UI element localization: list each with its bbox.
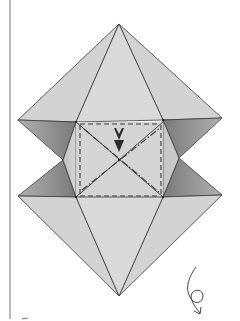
upper-flap [18, 24, 222, 122]
corner-mark [22, 318, 28, 319]
origami-diagram [0, 0, 240, 321]
lower-flap [18, 195, 222, 296]
right-side-flaps [163, 118, 222, 197]
left-side-flaps [18, 120, 76, 197]
turn-over-arrow-icon [188, 267, 203, 314]
